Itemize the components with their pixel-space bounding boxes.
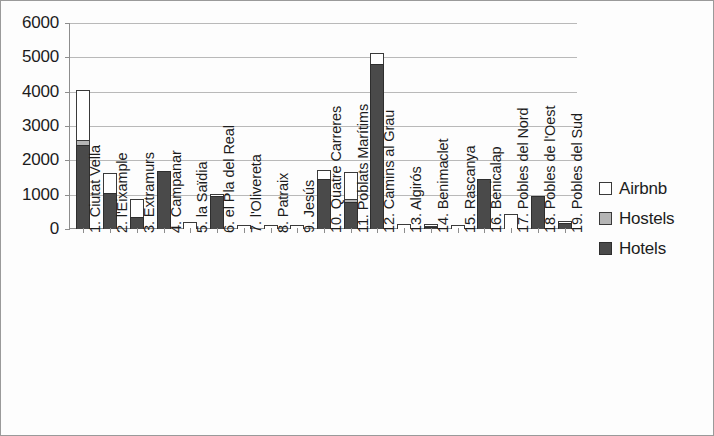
x-axis-label-slot: 11. Poblats Marítims <box>336 233 363 393</box>
x-axis-label-slot: 1. Ciutat Vella <box>69 233 96 393</box>
legend-label: Hotels <box>619 240 666 257</box>
x-axis-tick-label: 8. Patraix <box>276 173 291 233</box>
x-axis-label-slot: 7. l'Olivereta <box>229 233 256 393</box>
x-axis-tick-label: 17. Pobles del Nord <box>516 108 531 233</box>
x-axis-tick-label: 1. Ciutat Vella <box>88 145 103 233</box>
x-axis-label-slot: 17. Pobles del Nord <box>497 233 524 393</box>
x-axis-tick-label: 4. Campanar <box>169 150 184 233</box>
y-tick-mark <box>65 195 70 196</box>
x-axis-label-slot: 13. Algirós <box>390 233 417 393</box>
y-axis-tick-label: 4000 <box>0 83 59 100</box>
x-axis-tick-label: 16. Benicalap <box>489 146 504 233</box>
x-axis-labels: 1. Ciutat Vella2. l'Eixample3. Extramurs… <box>69 233 577 393</box>
x-axis-tick-label: 19. Pobles del Sud <box>570 113 585 233</box>
x-axis-label-slot: 5. la Saïdia <box>176 233 203 393</box>
y-tick-mark <box>65 57 70 58</box>
x-axis-tick-label: 12. Camins al Grau <box>382 110 397 233</box>
y-tick-mark <box>65 126 70 127</box>
x-axis-tick-label: 2. l'Eixample <box>115 153 130 233</box>
x-axis-label-slot: 14. Benimaclet <box>417 233 444 393</box>
x-axis-tick-label: 14. Benimaclet <box>436 138 451 233</box>
x-axis-label-slot: 18. Pobles de l'Oest <box>524 233 551 393</box>
legend-label: Hostels <box>619 210 674 227</box>
x-axis-tick-label: 13. Algirós <box>409 166 424 233</box>
x-axis-label-slot: 2. l'Eixample <box>96 233 123 393</box>
y-axis-tick-label: 1000 <box>0 186 59 203</box>
y-tick-mark <box>65 160 70 161</box>
y-tick-mark <box>65 92 70 93</box>
legend-item-airbnb[interactable]: Airbnb <box>599 173 711 203</box>
x-axis-tick-label: 15. Rascanya <box>463 146 478 233</box>
x-axis-tick-label: 3. Extramurs <box>142 152 157 233</box>
legend-swatch-hotels-icon <box>599 242 612 255</box>
y-axis-tick-label: 0 <box>0 220 59 237</box>
x-axis-label-slot: 8. Patraix <box>256 233 283 393</box>
bar-segment-airbnb <box>76 90 90 141</box>
chart-frame: 0100020003000400050006000 1. Ciutat Vell… <box>0 0 714 436</box>
x-axis-label-slot: 10. Quatre Carreres <box>310 233 337 393</box>
x-axis-label-slot: 19. Pobles del Sud <box>550 233 577 393</box>
x-axis-tick-label: 10. Quatre Carreres <box>329 106 344 233</box>
y-axis-tick-label: 3000 <box>0 117 59 134</box>
x-axis-label-slot: 12. Camins al Grau <box>363 233 390 393</box>
legend-item-hostels[interactable]: Hostels <box>599 203 711 233</box>
x-axis-label-slot: 4. Campanar <box>149 233 176 393</box>
x-axis-label-slot: 15. Rascanya <box>443 233 470 393</box>
y-axis-tick-label: 5000 <box>0 48 59 65</box>
x-axis-label-slot: 9. Jesús <box>283 233 310 393</box>
legend-label: Airbnb <box>619 180 667 197</box>
legend-swatch-hostels-icon <box>599 212 612 225</box>
x-axis-tick-label: 11. Poblats Marítims <box>356 104 371 233</box>
x-axis-tick-label: 7. l'Olivereta <box>249 154 264 233</box>
x-axis-tick-label: 5. la Saïdia <box>195 162 210 233</box>
legend-swatch-airbnb-icon <box>599 182 612 195</box>
x-axis-label-slot: 3. Extramurs <box>122 233 149 393</box>
y-tick-mark <box>65 23 70 24</box>
x-axis-label-slot: 16. Benicalap <box>470 233 497 393</box>
y-tick-mark <box>65 229 70 230</box>
y-axis-tick-label: 2000 <box>0 151 59 168</box>
legend-item-hotels[interactable]: Hotels <box>599 233 711 263</box>
chart-legend: AirbnbHostelsHotels <box>599 173 711 263</box>
x-axis-tick-label: 18. Pobles de l'Oest <box>543 106 558 233</box>
x-axis-tick-label: 9. Jesús <box>302 180 317 233</box>
x-axis-tick-label: 6. el Pla del Real <box>222 125 237 233</box>
y-axis-tick-label: 6000 <box>0 14 59 31</box>
x-axis-label-slot: 6. el Pla del Real <box>203 233 230 393</box>
